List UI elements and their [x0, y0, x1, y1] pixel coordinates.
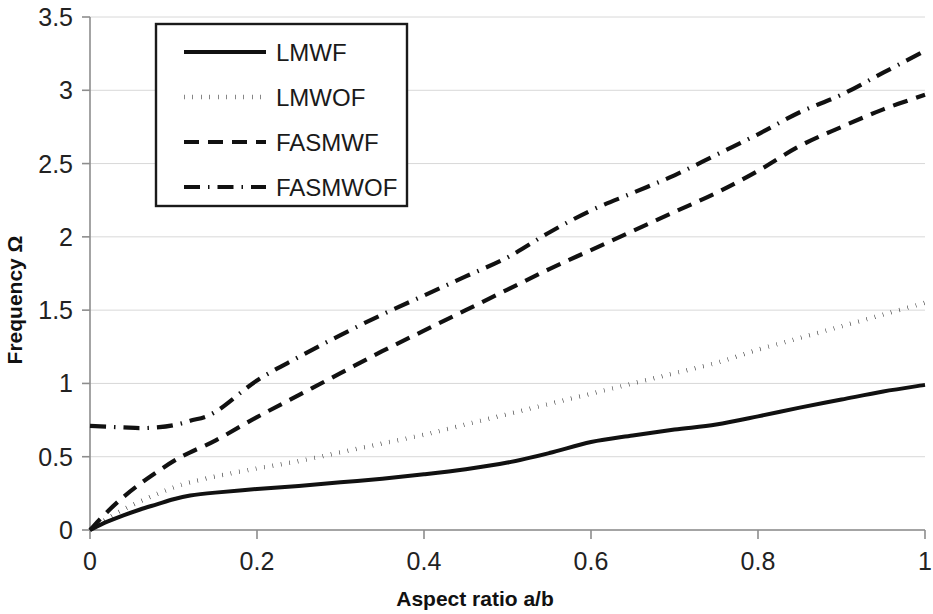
- legend-label-lmwof: LMWOF: [276, 84, 365, 111]
- x-tick-label: 0.6: [574, 547, 609, 575]
- y-tick-label: 3: [59, 76, 73, 104]
- y-tick-label: 1.5: [38, 296, 73, 324]
- x-axis-title: Aspect ratio a/b: [396, 587, 554, 610]
- y-tick-label: 0: [59, 516, 73, 544]
- x-tick-label: 1: [918, 547, 932, 575]
- x-axis: [90, 530, 925, 539]
- x-tick-label: 0.2: [240, 547, 275, 575]
- x-tick-label: 0.8: [741, 547, 776, 575]
- y-tick-label: 0.5: [38, 443, 73, 471]
- legend: LMWFLMWOFFASMWFFASMWOF: [156, 24, 407, 206]
- y-tick-label: 1: [59, 369, 73, 397]
- chart-canvas: 00.511.522.533.5 00.20.40.60.81 LMWFLMWO…: [0, 0, 933, 614]
- y-tick-labels: 00.511.522.533.5: [38, 3, 73, 544]
- chart-figure: 00.511.522.533.5 00.20.40.60.81 LMWFLMWO…: [0, 0, 933, 614]
- y-tick-label: 2.5: [38, 150, 73, 178]
- legend-label-fasmwof: FASMWOF: [276, 174, 397, 201]
- y-tick-label: 3.5: [38, 3, 73, 31]
- series-line-lmwof: [90, 303, 925, 530]
- y-axis-title: Frequency Ω: [3, 236, 26, 365]
- x-tick-labels: 00.20.40.60.81: [83, 547, 932, 575]
- legend-label-lmwf: LMWF: [276, 39, 347, 66]
- x-tick-label: 0: [83, 547, 97, 575]
- series-line-lmwf: [90, 385, 925, 530]
- y-axis: [82, 17, 90, 530]
- legend-label-fasmwf: FASMWF: [276, 129, 379, 156]
- x-tick-label: 0.4: [407, 547, 442, 575]
- y-tick-label: 2: [59, 223, 73, 251]
